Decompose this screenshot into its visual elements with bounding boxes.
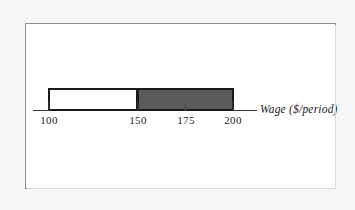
figure-root: 100 150 175 200 Wage ($/period) xyxy=(0,0,355,210)
plot-area: 100 150 175 200 Wage ($/period) xyxy=(26,24,337,190)
tick-mark-100 xyxy=(48,102,50,111)
bar-segment-unshaded xyxy=(48,88,138,111)
tick-mark-200 xyxy=(232,102,234,111)
x-axis-title: Wage ($/period) xyxy=(260,102,338,116)
tick-mark-175 xyxy=(185,103,186,111)
tick-label-175: 175 xyxy=(166,114,206,127)
tick-label-100: 100 xyxy=(29,114,69,127)
figure-frame: 100 150 175 200 Wage ($/period) xyxy=(25,23,336,189)
tick-mark-150 xyxy=(137,102,139,111)
tick-label-200: 200 xyxy=(213,114,253,127)
tick-label-150: 150 xyxy=(118,114,158,127)
